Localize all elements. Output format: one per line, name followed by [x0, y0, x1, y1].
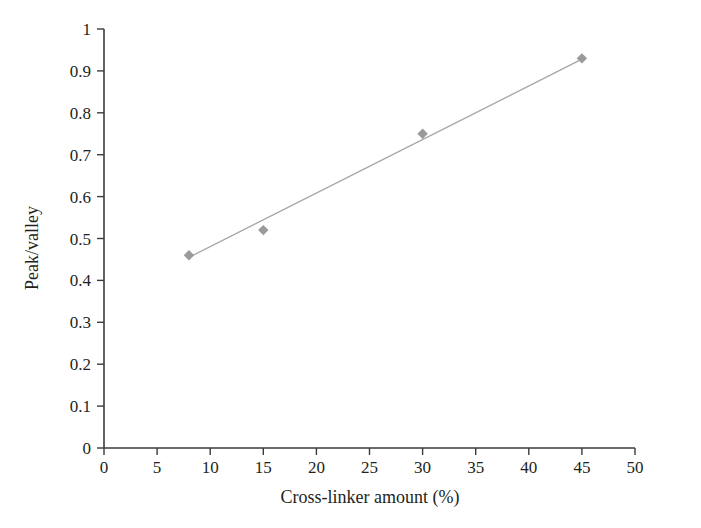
y-tick-label: 0.8 [70, 104, 91, 123]
x-tick-label: 15 [255, 458, 272, 477]
y-tick-label: 0.6 [70, 188, 91, 207]
x-tick-label: 50 [627, 458, 644, 477]
y-tick-label: 0.5 [70, 230, 91, 249]
x-tick-label: 10 [202, 458, 219, 477]
y-tick-label: 1 [83, 20, 92, 39]
x-tick-label: 20 [308, 458, 325, 477]
scatter-plot: 05101520253035404550 00.10.20.30.40.50.6… [0, 0, 701, 528]
x-tick-label: 30 [414, 458, 431, 477]
y-tick-label: 0.4 [70, 271, 92, 290]
x-axis-title: Cross-linker amount (%) [281, 487, 460, 508]
x-tick-label: 5 [153, 458, 162, 477]
y-tick-label: 0.9 [70, 62, 91, 81]
y-tick-label: 0 [83, 439, 92, 458]
y-tick-label: 0.1 [70, 397, 91, 416]
x-tick-label: 25 [361, 458, 378, 477]
chart-figure: 05101520253035404550 00.10.20.30.40.50.6… [0, 0, 701, 528]
y-axis-title: Peak/valley [22, 206, 42, 290]
y-tick-label: 0.7 [70, 146, 92, 165]
x-tick-label: 40 [520, 458, 537, 477]
x-tick-label: 35 [467, 458, 484, 477]
y-tick-label: 0.3 [70, 313, 91, 332]
y-tick-label: 0.2 [70, 355, 91, 374]
x-tick-label: 0 [100, 458, 109, 477]
x-tick-label: 45 [573, 458, 590, 477]
